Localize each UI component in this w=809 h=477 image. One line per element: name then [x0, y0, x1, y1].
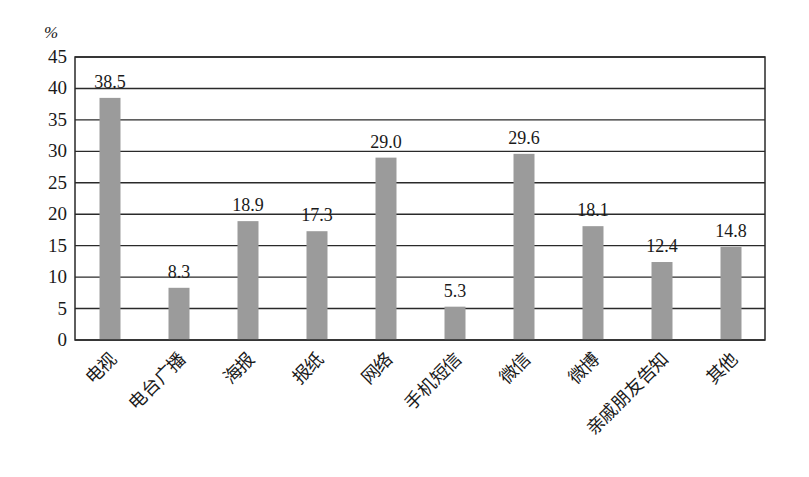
- bar: [238, 221, 259, 340]
- bar-value-label: 12.4: [646, 236, 678, 256]
- bar: [307, 231, 328, 340]
- bar-value-label: 29.0: [370, 132, 402, 152]
- y-tick-label: 20: [48, 203, 67, 224]
- bar-value-label: 18.9: [232, 195, 264, 215]
- bar-value-label: 18.1: [577, 200, 609, 220]
- bar: [376, 158, 397, 340]
- y-tick-label: 0: [58, 329, 68, 350]
- y-tick-label: 45: [48, 46, 67, 67]
- x-category-label: 微信: [495, 348, 535, 388]
- x-category-label: 报纸: [288, 348, 328, 388]
- bar-chart: % 051015202530354045 38.58.318.917.329.0…: [0, 0, 809, 477]
- bar-value-label: 5.3: [444, 281, 467, 301]
- bar: [100, 98, 121, 340]
- x-category-label: 电视: [81, 348, 121, 388]
- bar-value-label: 14.8: [715, 221, 747, 241]
- bar-value-label: 38.5: [94, 72, 126, 92]
- value-labels: 38.58.318.917.329.05.329.618.112.414.8: [94, 72, 747, 301]
- bar-value-label: 29.6: [508, 128, 540, 148]
- bar-value-label: 17.3: [301, 205, 333, 225]
- y-tick-label: 40: [48, 77, 67, 98]
- y-tick-label: 25: [48, 172, 67, 193]
- bar-value-label: 8.3: [168, 262, 191, 282]
- y-tick-label: 35: [48, 109, 67, 130]
- y-tick-label: 30: [48, 140, 67, 161]
- y-tick-label: 15: [48, 235, 67, 256]
- x-category-label: 网络: [357, 348, 397, 388]
- bars: [100, 98, 742, 340]
- bar: [721, 247, 742, 340]
- bar: [583, 226, 604, 340]
- bar: [169, 288, 190, 340]
- y-axis-ticks: 051015202530354045: [48, 46, 67, 350]
- x-axis-category-labels: 电视电台广播海报报纸网络手机短信微信微博亲戚朋友告知其他: [81, 348, 742, 439]
- x-category-label: 手机短信: [400, 348, 466, 414]
- bar: [652, 262, 673, 340]
- bar: [445, 307, 466, 340]
- y-tick-label: 10: [48, 266, 67, 287]
- x-category-label: 电台广播: [124, 348, 190, 414]
- bar: [514, 154, 535, 340]
- x-category-label: 微博: [564, 348, 604, 388]
- y-axis-unit-label: %: [44, 23, 58, 42]
- x-category-label: 海报: [219, 348, 259, 388]
- x-category-label: 其他: [702, 348, 742, 388]
- y-tick-label: 5: [58, 298, 68, 319]
